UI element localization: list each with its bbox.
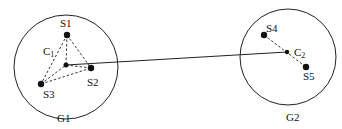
label-s3: S3 xyxy=(43,88,55,100)
g1-dashed-edges xyxy=(41,35,91,84)
group-g2-circle xyxy=(240,9,336,105)
cluster-diagram: S1 S2 S3 C1 S4 S5 C2 G1 G2 xyxy=(0,0,342,129)
label-s5: S5 xyxy=(303,70,315,82)
label-s2: S2 xyxy=(87,76,99,88)
centroid-link xyxy=(66,52,287,65)
centroid-c2 xyxy=(285,50,289,54)
label-s4: S4 xyxy=(266,22,278,34)
node-s1 xyxy=(64,32,70,38)
label-c2: C2 xyxy=(294,46,305,60)
label-g2: G2 xyxy=(286,111,299,123)
label-c1: C1 xyxy=(43,45,54,59)
node-s3 xyxy=(38,81,44,87)
node-s2 xyxy=(88,65,94,71)
label-s1: S1 xyxy=(60,17,72,29)
label-g1: G1 xyxy=(57,112,70,124)
centroid-c1 xyxy=(64,63,69,68)
